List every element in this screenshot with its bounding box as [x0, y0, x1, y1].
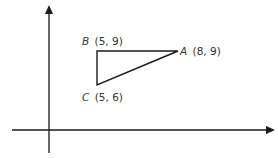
point-b-label: B (5, 9) [82, 35, 123, 47]
coordinate-plane: B (5, 9) A (8, 9) C (5, 6) [0, 0, 278, 158]
x-axis-arrow-icon [266, 126, 275, 134]
point-c-label: C (5, 6) [82, 91, 123, 103]
triangle-abc [97, 51, 178, 85]
y-axis-arrow-icon [45, 5, 53, 14]
point-a-label: A (8, 9) [179, 45, 221, 57]
